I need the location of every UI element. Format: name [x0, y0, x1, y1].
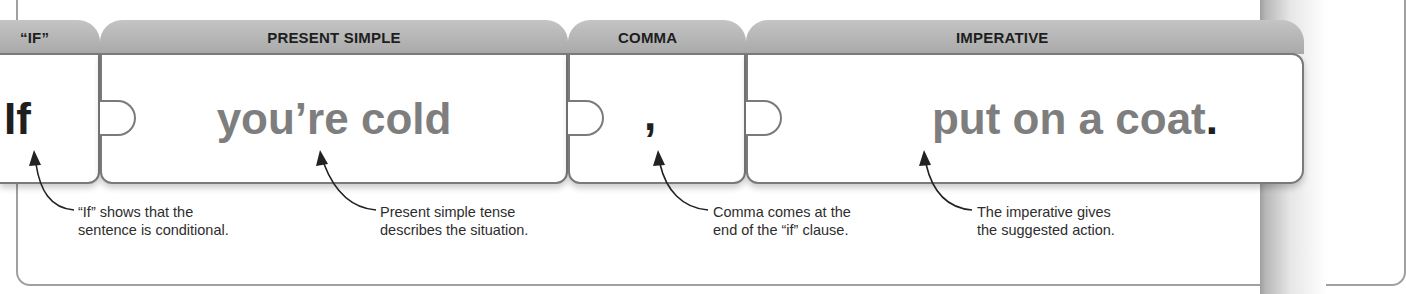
note-if: “If” shows that the sentence is conditio…	[78, 203, 229, 239]
note-imperative-line1: The imperative gives	[977, 203, 1115, 221]
note-imperative: The imperative gives the suggested actio…	[977, 203, 1115, 239]
content-present-simple: you’re cold	[100, 94, 568, 144]
note-if-line1: “If” shows that the	[78, 203, 229, 221]
note-present-simple-line1: Present simple tense	[380, 203, 528, 221]
puzzle-knob-1	[100, 100, 136, 136]
tab-imperative: IMPERATIVE	[746, 20, 1304, 54]
content-imperative-text: put on a coat	[932, 94, 1206, 143]
note-comma-line1: Comma comes at the	[713, 203, 851, 221]
note-present-simple-line2: describes the situation.	[380, 221, 528, 239]
arrow-icon	[910, 150, 980, 220]
piece-imperative: IMPERATIVE put on a coat.	[746, 20, 1304, 184]
content-imperative: put on a coat.	[846, 94, 1304, 144]
tab-label-if: “IF”	[0, 29, 100, 46]
content-imperative-period: .	[1206, 94, 1218, 143]
puzzle-knob-3	[746, 100, 782, 136]
arrow-icon	[304, 150, 384, 220]
tab-label-comma: COMMA	[568, 29, 746, 46]
note-imperative-line2: the suggested action.	[977, 221, 1115, 239]
tab-present-simple: PRESENT SIMPLE	[100, 20, 568, 54]
puzzle-knob-2	[568, 100, 604, 136]
note-if-line2: sentence is conditional.	[78, 221, 229, 239]
arrow-icon	[644, 150, 714, 220]
note-comma-line2: end of the “if” clause.	[713, 221, 851, 239]
tab-label-imperative: IMPERATIVE	[746, 29, 1304, 46]
tab-if: “IF”	[0, 20, 100, 54]
tab-comma: COMMA	[568, 20, 746, 54]
arrow-icon	[20, 150, 80, 220]
note-present-simple: Present simple tense describes the situa…	[380, 203, 528, 239]
note-comma: Comma comes at the end of the “if” claus…	[713, 203, 851, 239]
content-if: If	[0, 94, 100, 144]
tab-label-present-simple: PRESENT SIMPLE	[100, 29, 568, 46]
